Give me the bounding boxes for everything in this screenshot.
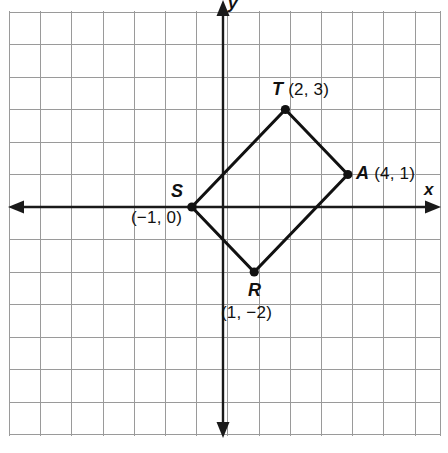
x-axis-label: x (424, 180, 433, 200)
vertex-label-A-name: A (356, 163, 369, 183)
y-axis-label: y (228, 0, 237, 14)
vertex-dot-A (343, 170, 352, 179)
vertex-label-A-coords: (4, 1) (369, 164, 415, 183)
vertex-dot-T (281, 105, 290, 114)
vertex-label-R-coords-wrap: (1, −2) (221, 304, 272, 322)
x-axis-left-arrow (8, 201, 24, 214)
coordinate-plane-figure: x y T (2, 3) A (4, 1) S (−1, 0) R (1, −2… (0, 0, 448, 453)
vertex-label-T-name: T (272, 79, 283, 99)
x-axis-right-arrow (425, 201, 441, 214)
x-axis (8, 201, 441, 214)
vertex-label-R-coords: (1, −2) (221, 303, 272, 322)
vertex-label-S-coords-wrap: (−1, 0) (131, 209, 182, 227)
grid-lines (9, 11, 440, 436)
vertex-label-S-name: S (171, 181, 183, 201)
vertex-label-S: S (171, 182, 183, 201)
quadrilateral-star (192, 110, 348, 273)
vertex-label-A: A (4, 1) (356, 164, 415, 183)
vertex-dots (187, 105, 352, 277)
vertex-label-R-name: R (248, 280, 261, 300)
vertex-label-S-coords: (−1, 0) (131, 208, 182, 227)
vertex-label-T: T (2, 3) (272, 80, 329, 99)
vertex-label-R: R (248, 281, 261, 300)
vertex-label-T-coords: (2, 3) (283, 80, 329, 99)
vertex-dot-S (187, 202, 196, 211)
plot-canvas (0, 0, 448, 453)
vertex-dot-R (250, 267, 259, 276)
